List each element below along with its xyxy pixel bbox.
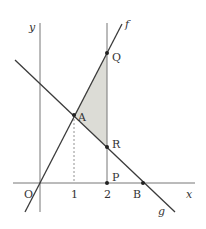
- point-B: [141, 181, 145, 185]
- point-Q-label: Q: [112, 51, 121, 64]
- tick-label-1: 1: [71, 188, 78, 201]
- point-R-label: R: [112, 138, 121, 151]
- point-A: [72, 113, 76, 117]
- origin-label: O: [24, 188, 33, 201]
- line-g-label: g: [158, 205, 165, 218]
- coordinate-diagram: y x O 1 2 f g A Q R P B: [0, 0, 206, 229]
- y-axis-label: y: [28, 21, 36, 34]
- tick-label-2: 2: [104, 188, 111, 201]
- point-P: [105, 181, 109, 185]
- point-R: [105, 145, 109, 149]
- line-f-label: f: [124, 18, 131, 31]
- shaded-triangle-AQR: [74, 53, 107, 147]
- point-Q: [105, 51, 109, 55]
- point-B-label: B: [133, 188, 141, 201]
- x-axis-label: x: [186, 188, 193, 201]
- point-A-label: A: [77, 111, 87, 124]
- point-P-label: P: [112, 171, 120, 184]
